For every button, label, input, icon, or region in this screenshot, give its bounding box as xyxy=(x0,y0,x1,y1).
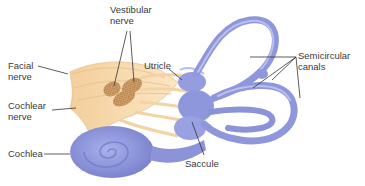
label-semicircular-canals: Semicircular canals xyxy=(298,50,350,72)
inner-ear-diagram: Vestibular nerve Facial nerve Utricle Se… xyxy=(0,0,365,186)
inner-ear-illustration xyxy=(0,0,365,186)
label-vestibular-nerve: Vestibular nerve xyxy=(110,4,152,26)
semicircular-canals-shape xyxy=(196,20,294,141)
label-utricle: Utricle xyxy=(144,60,171,71)
label-saccule: Saccule xyxy=(185,158,219,169)
label-cochlear-nerve: Cochlear nerve xyxy=(8,100,46,122)
label-cochlea: Cochlea xyxy=(8,148,43,159)
label-facial-nerve: Facial nerve xyxy=(8,60,33,82)
